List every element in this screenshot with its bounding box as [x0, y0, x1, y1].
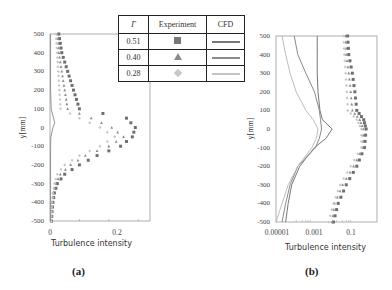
line-swatch-icon [212, 73, 240, 75]
x-tick-label: 0.1 [331, 228, 371, 237]
line-swatch-icon [212, 41, 240, 43]
y-tick-label: -500 [14, 217, 44, 225]
panel-label-b: (b) [305, 265, 318, 277]
legend-cfd-line [207, 66, 245, 82]
y-axis-label-a: y[mm] [18, 117, 27, 139]
legend-table: Γ Experiment CFD 0.51 0.40 0.28 [118, 15, 245, 82]
x-tick-label: 0.2 [97, 228, 137, 237]
legend-experiment-marker [149, 66, 207, 82]
y-tick-label: -500 [240, 218, 270, 226]
legend-experiment-marker [149, 34, 207, 50]
x-tick-label: 0 [30, 228, 70, 237]
y-tick-label: -100 [14, 142, 44, 150]
legend-row: 0.51 [119, 34, 245, 50]
legend-header-experiment: Experiment [149, 16, 207, 34]
y-tick-label: -300 [240, 181, 270, 189]
y-tick-label: 400 [14, 49, 44, 57]
y-tick-label: 200 [240, 88, 270, 96]
triangle-marker-icon [174, 53, 182, 60]
x-tick-label: 0.00001 [257, 228, 297, 237]
legend-row: 0.28 [119, 66, 245, 82]
y-tick-label: 100 [14, 105, 44, 113]
legend-gamma-value: 0.28 [119, 66, 149, 82]
legend-experiment-marker [149, 50, 207, 66]
legend-header-gamma: Γ [119, 16, 149, 34]
legend-cfd-line [207, 50, 245, 66]
y-tick-label: 100 [240, 106, 270, 114]
diamond-marker-icon [173, 69, 181, 77]
y-tick-label: -300 [14, 180, 44, 188]
y-tick-label: 300 [14, 67, 44, 75]
y-tick-label: -200 [240, 162, 270, 170]
legend-gamma-value: 0.51 [119, 34, 149, 50]
y-tick-label: -400 [240, 199, 270, 207]
line-swatch-icon [212, 57, 240, 59]
square-marker-icon [174, 37, 181, 44]
legend-gamma-value: 0.40 [119, 50, 149, 66]
y-axis-label-b: y[mm] [246, 118, 255, 140]
y-tick-label: 200 [14, 86, 44, 94]
legend-header-cfd: CFD [207, 16, 245, 34]
y-tick-label: -100 [240, 144, 270, 152]
y-tick-label: -400 [14, 198, 44, 206]
y-tick-label: 500 [14, 30, 44, 38]
panel-label-a: (a) [72, 265, 85, 277]
x-axis-label-b: Turbulence intensity [285, 243, 366, 252]
x-tick-label: 0.001 [294, 228, 334, 237]
y-tick-label: -200 [14, 161, 44, 169]
x-axis-label-a: Turbulence intensity [51, 239, 132, 248]
legend-cfd-line [207, 34, 245, 50]
legend-row: 0.40 [119, 50, 245, 66]
